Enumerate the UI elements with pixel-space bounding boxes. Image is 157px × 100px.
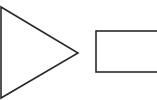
diagram-canvas xyxy=(0,0,157,100)
rectangle-shape xyxy=(96,31,157,72)
triangle-shape xyxy=(1,7,78,98)
diagram-svg xyxy=(0,0,157,100)
